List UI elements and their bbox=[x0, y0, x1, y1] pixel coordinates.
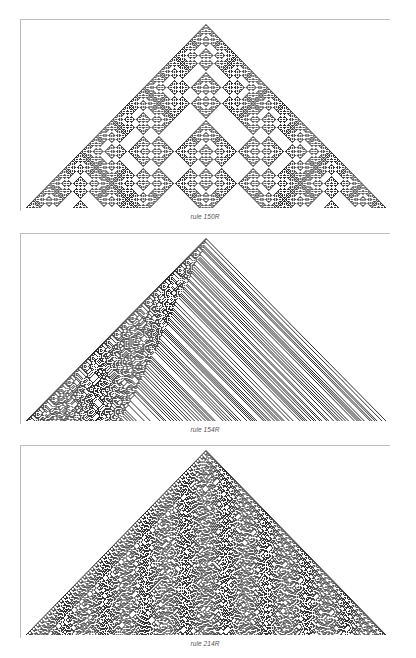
caption-rule-150: rule 150R bbox=[20, 213, 390, 220]
ca-panel-rule-154 bbox=[20, 233, 390, 424]
ca-panel-rule-214 bbox=[20, 445, 390, 638]
caption-rule-154: rule 154R bbox=[20, 426, 390, 433]
ca-pattern-rule-214 bbox=[21, 446, 391, 639]
ca-pattern-rule-150 bbox=[21, 20, 391, 212]
caption-rule-214: rule 214R bbox=[20, 640, 390, 647]
ca-pattern-rule-154 bbox=[21, 234, 391, 425]
ca-panel-rule-150 bbox=[20, 19, 390, 211]
